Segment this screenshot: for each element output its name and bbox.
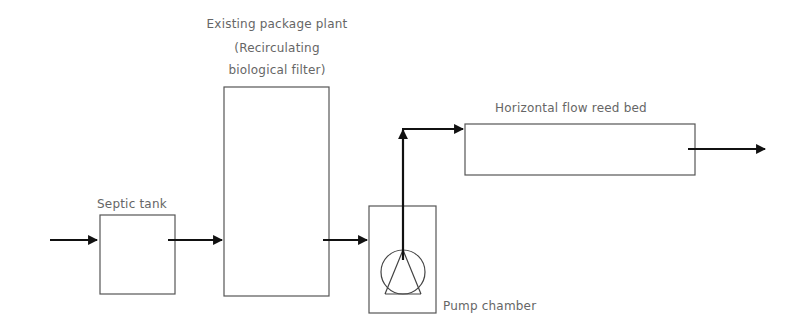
package-plant-label-line1: Existing package plant xyxy=(196,17,358,31)
septic-tank-box xyxy=(100,215,175,294)
reed-bed-box xyxy=(465,124,695,175)
package-plant-label-line2: (Recirculating xyxy=(196,41,358,55)
pump-chamber-label: Pump chamber xyxy=(443,299,536,313)
package-plant-label-line3: biological filter) xyxy=(196,63,358,77)
septic-tank-label: Septic tank xyxy=(97,197,167,211)
reed-bed-label: Horizontal flow reed bed xyxy=(495,101,647,115)
process-flow-diagram: Septic tank Existing package plant (Reci… xyxy=(0,0,807,331)
diagram-graphics xyxy=(0,0,807,331)
package-plant-box xyxy=(224,87,329,296)
